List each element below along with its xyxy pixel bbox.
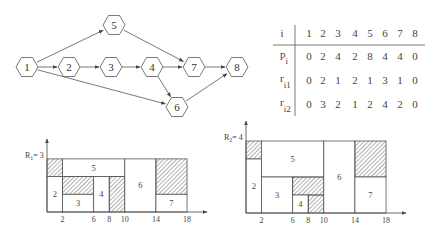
job-label: 2 bbox=[53, 189, 57, 199]
node-4: 4 bbox=[141, 58, 163, 77]
x-tick-label: 2 bbox=[260, 216, 264, 225]
job-label: 6 bbox=[138, 180, 142, 190]
table-cell: 0 bbox=[412, 98, 418, 110]
table-cell: 4 bbox=[335, 50, 341, 62]
precedence-graph: 12345678 bbox=[16, 16, 248, 117]
node-8: 8 bbox=[226, 58, 248, 77]
row-label: ri2 bbox=[280, 96, 291, 114]
x-tick-label: 8 bbox=[107, 215, 111, 224]
edge-4-6 bbox=[158, 76, 171, 96]
x-tick-label: 10 bbox=[320, 216, 328, 225]
table-cell: 1 bbox=[367, 74, 373, 86]
job-label: 4 bbox=[99, 189, 104, 199]
table-column-header: 3 bbox=[335, 27, 341, 39]
edge-5-7 bbox=[124, 30, 184, 61]
table-cell: 2 bbox=[320, 50, 326, 62]
idle-capacity-block bbox=[109, 177, 125, 212]
table-row: ri203212420 bbox=[280, 96, 418, 114]
idle-capacity-block bbox=[63, 177, 94, 195]
table-cell: 2 bbox=[320, 74, 326, 86]
table-column-header: 7 bbox=[397, 27, 403, 39]
table-cell: 4 bbox=[397, 50, 403, 62]
table-cell: 4 bbox=[382, 98, 388, 110]
edge-6-8 bbox=[186, 74, 227, 101]
job-label: 5 bbox=[92, 163, 96, 173]
table-column-header: 6 bbox=[382, 27, 388, 39]
table-cell: 0 bbox=[306, 50, 312, 62]
table-column-header: 5 bbox=[367, 27, 373, 39]
x-tick-label: 6 bbox=[92, 215, 96, 224]
capacity-label: R2= 4 bbox=[224, 133, 243, 143]
job-data-table: i12345678pi02428440ri102121310ri20321242… bbox=[273, 25, 425, 116]
node-1: 1 bbox=[16, 58, 38, 77]
table-column-header: 1 bbox=[306, 27, 312, 39]
row-label: ri1 bbox=[280, 72, 291, 90]
node-5: 5 bbox=[103, 16, 125, 35]
idle-capacity-block bbox=[308, 195, 324, 213]
table-cell: 2 bbox=[352, 74, 358, 86]
job-label: 3 bbox=[275, 190, 279, 200]
resource-profile-chart-r1: 253467268101418R1= 3 bbox=[25, 139, 207, 224]
table-cell: 0 bbox=[306, 98, 312, 110]
table-header-label: i bbox=[280, 27, 283, 39]
node-6: 6 bbox=[166, 98, 188, 117]
resource-profile-chart-r2: 253467268101418R2= 4 bbox=[224, 121, 406, 225]
table-cell: 0 bbox=[306, 74, 312, 86]
node-7: 7 bbox=[183, 58, 205, 77]
table-column-header: 8 bbox=[412, 27, 418, 39]
x-tick-label: 14 bbox=[152, 215, 160, 224]
node-label: 6 bbox=[174, 101, 180, 113]
row-label: pi bbox=[280, 48, 289, 66]
node-label: 8 bbox=[234, 61, 240, 73]
capacity-label: R1= 3 bbox=[25, 151, 44, 161]
node-label: 2 bbox=[66, 61, 72, 73]
table-cell: 2 bbox=[352, 50, 358, 62]
project-scheduling-figure: 12345678 i12345678pi02428440ri102121310r… bbox=[0, 0, 437, 235]
x-tick-label: 6 bbox=[291, 216, 295, 225]
x-tick-label: 10 bbox=[121, 215, 129, 224]
job-label: 7 bbox=[368, 190, 372, 200]
table-cell: 1 bbox=[335, 74, 341, 86]
idle-capacity-block bbox=[47, 159, 63, 177]
table-column-header: 2 bbox=[320, 27, 326, 39]
x-tick-label: 2 bbox=[61, 215, 65, 224]
x-tick-label: 14 bbox=[351, 216, 359, 225]
table-row: ri102121310 bbox=[280, 72, 418, 90]
job-label: 4 bbox=[298, 199, 303, 209]
table-cell: 4 bbox=[382, 50, 388, 62]
x-tick-label: 8 bbox=[306, 216, 310, 225]
node-label: 3 bbox=[108, 61, 114, 73]
table-cell: 0 bbox=[412, 74, 418, 86]
job-label: 3 bbox=[76, 198, 80, 208]
table-cell: 1 bbox=[397, 74, 403, 86]
table-cell: 0 bbox=[412, 50, 418, 62]
table-cell: 2 bbox=[335, 98, 341, 110]
idle-capacity-block bbox=[355, 141, 386, 177]
node-3: 3 bbox=[100, 58, 122, 77]
table-cell: 1 bbox=[352, 98, 358, 110]
node-2: 2 bbox=[58, 58, 80, 77]
table-row: pi02428440 bbox=[280, 48, 418, 66]
idle-capacity-block bbox=[293, 177, 324, 195]
job-label: 7 bbox=[169, 198, 173, 208]
job-label: 6 bbox=[337, 172, 341, 182]
node-label: 4 bbox=[149, 61, 155, 73]
table-cell: 2 bbox=[397, 98, 403, 110]
x-tick-label: 18 bbox=[183, 215, 191, 224]
idle-capacity-block bbox=[156, 159, 187, 194]
table-column-header: 4 bbox=[352, 27, 358, 39]
job-label: 5 bbox=[291, 154, 295, 164]
table-cell: 2 bbox=[367, 98, 373, 110]
node-label: 7 bbox=[191, 61, 197, 73]
x-tick-label: 18 bbox=[382, 216, 390, 225]
job-label: 2 bbox=[252, 181, 256, 191]
node-label: 1 bbox=[24, 61, 30, 73]
idle-capacity-block bbox=[246, 141, 262, 159]
node-label: 5 bbox=[111, 19, 117, 31]
table-cell: 8 bbox=[367, 50, 373, 62]
table-cell: 3 bbox=[320, 98, 326, 110]
table-cell: 3 bbox=[382, 74, 388, 86]
